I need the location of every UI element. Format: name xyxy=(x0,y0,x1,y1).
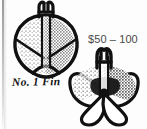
price-label: $50 – 100 xyxy=(88,33,138,46)
scan-edge-gradient xyxy=(4,0,7,129)
fin-illustration-bottom xyxy=(62,46,147,129)
figure-caption-no-1-fin: No. 1 Fin xyxy=(12,75,61,88)
clipping-canvas: No. 1 Fin xyxy=(0,0,147,129)
